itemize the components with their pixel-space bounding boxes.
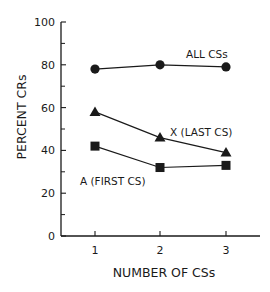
circle-marker xyxy=(155,60,164,69)
square-marker xyxy=(222,161,231,170)
y-tick-label: 100 xyxy=(34,16,55,29)
y-tick-label: 0 xyxy=(48,230,55,243)
square-marker xyxy=(91,142,100,151)
series-square xyxy=(91,142,231,172)
series-label: X (LAST CS) xyxy=(170,126,232,138)
x-tick-label: 1 xyxy=(92,244,99,257)
y-axis: 020406080100 xyxy=(34,16,66,243)
series-label: ALL CSs xyxy=(186,48,228,60)
y-tick-label: 20 xyxy=(41,187,55,200)
circle-marker xyxy=(90,64,99,73)
y-tick-label: 60 xyxy=(41,102,55,115)
x-tick-label: 2 xyxy=(157,244,164,257)
x-axis-title: NUMBER OF CSs xyxy=(113,265,216,280)
series-layer xyxy=(90,60,232,172)
y-tick-label: 80 xyxy=(41,59,55,72)
square-marker xyxy=(156,163,165,172)
circle-marker xyxy=(221,62,230,71)
series-label: A (FIRST CS) xyxy=(80,175,146,187)
y-tick-label: 40 xyxy=(41,144,55,157)
x-tick-label: 3 xyxy=(223,244,230,257)
series-circle xyxy=(90,60,230,73)
line-chart: 020406080100 123 ALL CSsX (LAST CS)A (FI… xyxy=(0,0,270,292)
triangle-marker xyxy=(155,132,166,142)
x-axis: 123 xyxy=(61,231,260,257)
triangle-marker xyxy=(90,106,101,116)
y-axis-title: PERCENT CRs xyxy=(14,74,29,159)
